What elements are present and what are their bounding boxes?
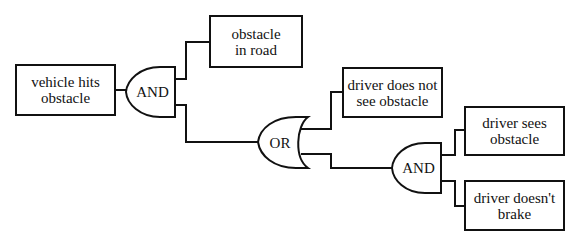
label-line-2: in road <box>235 42 277 58</box>
event-label-vehicle-hits-obstacle: vehicle hitsobstacle <box>16 65 115 115</box>
event-label-driver-sees: driver seesobstacle <box>465 107 564 155</box>
and-gate-1-label: AND <box>130 67 175 117</box>
label-line-2: brake <box>498 206 531 222</box>
label-line-2: obstacle <box>41 90 90 106</box>
label-line-1: driver does not <box>348 77 438 93</box>
label-line-1: driver sees <box>482 115 547 131</box>
or-gate-label: OR <box>260 117 300 168</box>
label-line-1: driver doesn't <box>474 190 555 206</box>
event-label-driver-doesnt-brake: driver doesn'tbrake <box>465 181 564 230</box>
label-line-2: see obstacle <box>356 93 428 109</box>
label-line-1: vehicle hits <box>31 74 100 90</box>
label-line-2: obstacle <box>490 131 539 147</box>
event-label-obstacle-in-road: obstaclein road <box>210 16 302 67</box>
and-gate-2-label: AND <box>396 143 441 193</box>
label-line-1: obstacle <box>231 26 280 42</box>
event-label-driver-does-not-see: driver does notsee obstacle <box>343 68 442 117</box>
